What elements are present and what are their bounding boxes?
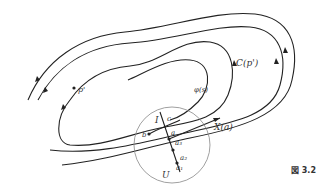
label-a3: a₃: [175, 139, 182, 147]
label-a2: a₂: [180, 154, 187, 162]
trajectory-outer: [28, 13, 295, 165]
label-b: b: [142, 131, 147, 139]
point-a: [167, 137, 170, 140]
label-u: U: [162, 170, 170, 180]
label-i: I: [154, 115, 159, 125]
label-p-prime: p': [78, 85, 85, 94]
diagram-canvas: p' C(p') φ(s) I c b a a₃ a₂ a₁ X(a) U 図 …: [0, 0, 330, 195]
label-c-p-prime: C(p'): [236, 58, 259, 68]
figure-caption: 図 3.2: [291, 166, 316, 175]
point-b: [147, 132, 150, 135]
point-a3: [171, 148, 174, 151]
label-a1: a₁: [176, 164, 183, 172]
label-a: a: [171, 129, 175, 137]
label-x-a: X(a): [213, 122, 233, 132]
neighbourhood-u: [134, 107, 210, 183]
label-phi-s: φ(s): [194, 86, 208, 94]
arrow-outer-right: [283, 47, 288, 53]
point-p-prime: [72, 86, 75, 89]
label-c: c: [167, 115, 171, 123]
arrow-second-right: [274, 58, 279, 64]
